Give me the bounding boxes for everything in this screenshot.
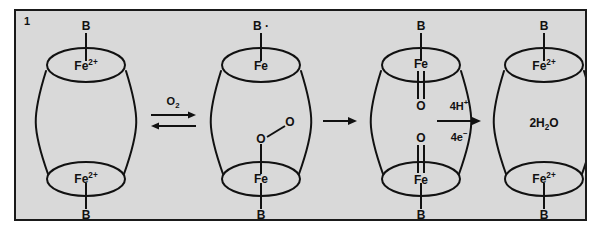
ligand-bottom-label-4: B — [540, 209, 549, 221]
ligand-bottom-label-1: B — [82, 209, 91, 221]
arrow-label-oxygen: O2 — [167, 96, 180, 107]
metal-bottom-label-2: Fe — [254, 173, 268, 185]
oxo-top-label-3: O — [416, 100, 425, 112]
metal-bottom-label-3: Fe — [414, 174, 428, 186]
ligand-top-label-4: B — [540, 20, 549, 32]
structure-state-1: B Fe2+ Fe2+ B — [26, 11, 146, 221]
single-arrow-icon — [321, 11, 361, 221]
bridge-oxygen-proximal-label-2: O — [256, 133, 265, 145]
reaction-scheme-figure: 1 B Fe2+ Fe2+ B O2 — [14, 9, 587, 221]
metal-top-label-1: Fe2+ — [74, 60, 97, 72]
ligand-top-label-2: B · — [253, 20, 269, 32]
ligand-top-label-1: B — [82, 20, 91, 32]
structure-state-4: B Fe2+ 2H2O Fe2+ B — [484, 11, 587, 221]
ligand-bottom-label-2: B — [257, 209, 266, 221]
ligand-top-label-3: B — [417, 20, 426, 32]
arrow-reduction: 4H+ 4e− — [429, 11, 489, 221]
ligand-bottom-label-3: B — [417, 209, 426, 221]
barrel-shape-2 — [201, 11, 321, 221]
barrel-shape-1 — [26, 11, 146, 221]
bridge-oxygen-distal-label-2: O — [285, 116, 294, 128]
reversible-arrow-icon — [146, 11, 201, 221]
metal-top-label-2: Fe — [254, 60, 268, 72]
water-product-label-4: 2H2O — [529, 117, 558, 129]
arrow-label-electrons: 4e− — [451, 132, 468, 143]
metal-top-label-4: Fe2+ — [532, 60, 555, 72]
metal-top-label-3: Fe — [414, 58, 428, 70]
metal-bottom-label-4: Fe2+ — [532, 173, 555, 185]
structure-state-2: B · Fe O O Fe B — [201, 11, 321, 221]
oxo-bottom-label-3: O — [416, 132, 425, 144]
arrow-oxygen-binding: O2 — [146, 11, 201, 221]
arrow-label-protons: 4H+ — [450, 101, 469, 112]
arrow-bond-cleavage — [321, 11, 361, 221]
metal-bottom-label-1: Fe2+ — [74, 173, 97, 185]
single-arrow-icon-reduction — [429, 11, 489, 221]
